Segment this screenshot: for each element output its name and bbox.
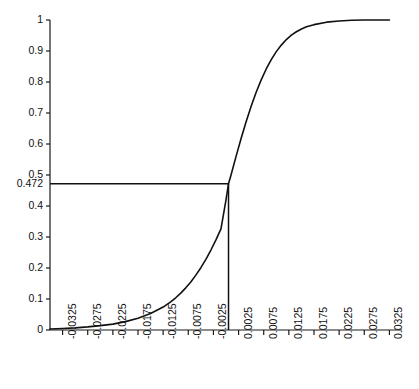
x-tick-label: 0.0175 (318, 307, 329, 339)
x-tick-label: -0.0325 (67, 303, 78, 339)
x-tick-label: -0.0075 (192, 303, 203, 339)
y-tick-label: 0.6 (28, 138, 43, 149)
x-tick-label: 0.0325 (393, 307, 404, 339)
plot-area (0, 0, 419, 389)
x-tick-label: 0.0125 (293, 307, 304, 339)
x-tick-label: 0.0025 (243, 307, 254, 339)
y-tick-label: 0.1 (28, 293, 43, 304)
y-tick-label: 0.5 (28, 169, 43, 180)
y-tick-label: 0.4 (28, 200, 43, 211)
y-tick-label: 1 (37, 14, 43, 25)
x-tick-label: 0.0075 (268, 307, 279, 339)
y-tick-label: 0.9 (28, 45, 43, 56)
x-tick-label: -0.0125 (167, 303, 178, 339)
x-tick-label: -0.0225 (117, 303, 128, 339)
x-tick-label: -0.0275 (92, 303, 103, 339)
x-tick-label: 0.0225 (343, 307, 354, 339)
chart-canvas: 00.10.20.30.40.4720.50.60.70.80.91 -0.03… (0, 0, 419, 389)
sigmoid-curve (50, 20, 389, 329)
y-tick-label: 0 (37, 324, 43, 335)
y-tick-label: 0.2 (28, 262, 43, 273)
x-tick-label: -0.0025 (217, 303, 228, 339)
x-tick-label: 0.0275 (368, 307, 379, 339)
y-tick-label: 0.8 (28, 76, 43, 87)
y-tick-label: 0.7 (28, 107, 43, 118)
y-tick-label: 0.3 (28, 231, 43, 242)
x-tick-label: -0.0175 (142, 303, 153, 339)
